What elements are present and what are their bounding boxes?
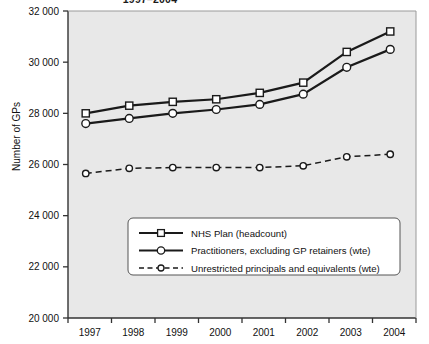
y-tick-label: 20 000 — [28, 313, 59, 324]
data-point-marker — [169, 98, 176, 105]
x-tick-label: 1997 — [79, 327, 102, 338]
chart-title: 1997–2004 — [60, 0, 240, 5]
x-tick-label: 2003 — [340, 327, 363, 338]
data-point-marker — [83, 170, 89, 176]
legend-marker-sample — [158, 265, 164, 271]
legend-marker-sample — [158, 230, 165, 237]
x-tick-label: 1998 — [122, 327, 145, 338]
data-point-marker — [299, 90, 307, 98]
data-point-marker — [169, 109, 177, 117]
data-point-marker — [256, 89, 263, 96]
y-tick-label: 32 000 — [28, 6, 59, 17]
data-point-marker — [82, 110, 89, 117]
legend-label: Practitioners, excluding GP retainers (w… — [191, 245, 371, 256]
data-point-marker — [300, 79, 307, 86]
legend-label: NHS Plan (headcount) — [191, 228, 287, 239]
data-point-marker — [82, 120, 90, 128]
data-point-marker — [343, 48, 350, 55]
x-axis-ticks — [68, 318, 416, 323]
legend-entry-1: NHS Plan (headcount) — [139, 228, 287, 239]
data-point-marker — [125, 115, 133, 123]
plot-svg: 20 00022 00024 00026 00028 00030 00032 0… — [0, 0, 429, 344]
y-axis-ticks — [63, 11, 68, 318]
data-point-marker — [126, 102, 133, 109]
x-tick-label: 2004 — [383, 327, 406, 338]
data-point-marker — [213, 164, 219, 170]
data-point-marker — [387, 28, 394, 35]
chart-legend: NHS Plan (headcount)Practitioners, exclu… — [128, 218, 400, 275]
data-point-marker — [126, 165, 132, 171]
x-tick-label: 2001 — [253, 327, 276, 338]
y-axis-tick-labels: 20 00022 00024 00026 00028 00030 00032 0… — [28, 6, 59, 324]
y-tick-label: 28 000 — [28, 108, 59, 119]
y-tick-label: 24 000 — [28, 210, 59, 221]
y-tick-label: 30 000 — [28, 57, 59, 68]
data-point-marker — [257, 164, 263, 170]
legend-label: Unrestricted principals and equivalents … — [191, 263, 380, 274]
y-tick-label: 22 000 — [28, 261, 59, 272]
x-axis-tick-labels: 19971998199920002001200220032004 — [79, 327, 406, 338]
y-tick-label: 26 000 — [28, 159, 59, 170]
data-point-marker — [344, 154, 350, 160]
x-tick-label: 2000 — [209, 327, 232, 338]
x-tick-label: 2002 — [296, 327, 319, 338]
data-point-marker — [386, 45, 394, 53]
data-point-marker — [256, 100, 264, 108]
data-point-marker — [170, 164, 176, 170]
data-point-marker — [387, 151, 393, 157]
legend-marker-sample — [157, 247, 164, 254]
x-tick-label: 1999 — [166, 327, 189, 338]
data-point-marker — [343, 63, 351, 71]
chart-figure: 1997–2004 Number of GPs 20 00022 00024 0… — [0, 0, 429, 344]
data-point-marker — [212, 106, 220, 114]
data-point-marker — [213, 96, 220, 103]
y-axis-title: Number of GPs — [11, 77, 22, 197]
data-point-marker — [300, 163, 306, 169]
